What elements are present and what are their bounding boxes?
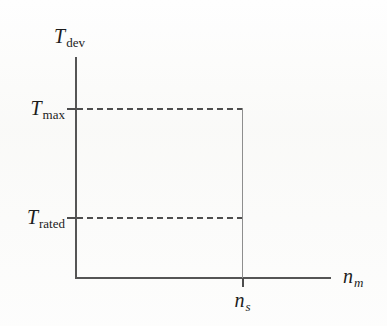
x-axis-label: nm	[343, 266, 362, 286]
tmax-symbol: T	[30, 97, 41, 119]
y-axis-label: Tdev	[54, 26, 84, 46]
x-axis-subscript: m	[354, 275, 363, 290]
ns-subscript: s	[245, 299, 250, 314]
torque-speed-figure: Tdev nm Tmax Trated ns	[0, 0, 387, 326]
trated-symbol: T	[27, 206, 38, 228]
dashed-line-trated	[77, 217, 243, 219]
x-tick-ns	[242, 278, 244, 287]
y-tick-label-tmax: Tmax	[0, 98, 64, 118]
dashed-line-tmax	[77, 108, 243, 110]
y-tick-label-trated: Trated	[0, 207, 64, 227]
vertical-line-ns	[242, 108, 243, 278]
x-axis-line	[75, 277, 331, 279]
y-axis-symbol: T	[54, 25, 65, 47]
y-tick-tmax	[67, 108, 76, 110]
y-axis-subscript: dev	[66, 35, 85, 50]
x-tick-label-ns: ns	[222, 290, 262, 310]
x-axis-symbol: n	[343, 265, 353, 287]
trated-subscript: rated	[39, 216, 65, 231]
tmax-subscript: max	[43, 107, 65, 122]
ns-symbol: n	[234, 289, 244, 311]
y-axis-line	[75, 57, 77, 278]
y-tick-trated	[67, 217, 76, 219]
